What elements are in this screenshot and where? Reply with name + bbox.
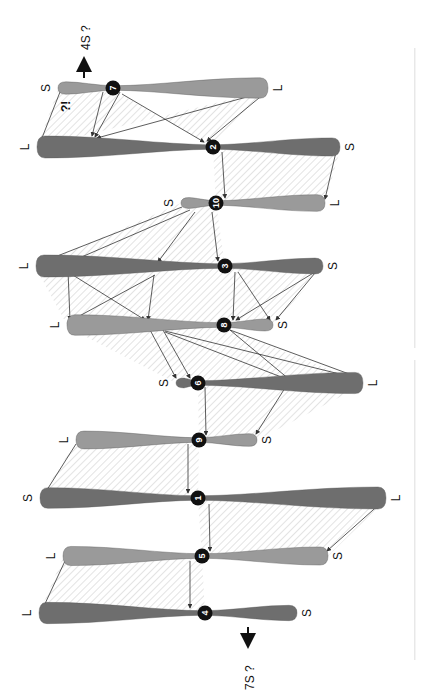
arm-label: L [44,552,58,559]
chromosome-number: 10 [211,198,221,208]
question-mark-annotation: ?! [59,101,73,112]
chromosome-arm [37,136,213,158]
chromosome-arm [113,78,268,98]
homology-regions [36,90,386,613]
chromosome-number: 4 [200,610,210,615]
arm-label: S [162,199,176,207]
arm-label: L [57,436,71,443]
arm-label: S [21,494,35,502]
chromosome-number: 8 [219,322,229,327]
arm-label: S [39,84,53,92]
chromosome-diagram: 7SL2LS10SL3LS8LS6SL9LS1SL5LS4LS 4S ? 7S … [0,0,424,693]
arm-label: S [260,436,274,444]
chromosome-number: 2 [208,144,218,149]
arm-label: L [48,321,62,328]
annotation-4s: 4S ? [79,25,93,78]
arm-label: L [17,262,31,269]
arm-label: L [366,379,380,386]
arm-label: L [389,494,403,501]
arm-label: L [328,199,342,206]
arm-label: S [343,143,357,151]
annotation-7s: 7S ? [243,627,257,690]
chromosome-number: 9 [194,437,204,442]
arm-label: L [20,609,34,616]
arm-label: S [300,609,314,617]
chromosome-number: 3 [220,263,230,268]
arm-label: L [18,143,32,150]
chromosome-number: 5 [197,553,207,558]
label-4s: 4S ? [79,25,93,50]
arm-label: S [276,321,290,329]
arm-label: S [331,552,345,560]
arm-label: S [326,262,340,270]
figure-caption [414,48,416,660]
arm-label: S [157,379,171,387]
label-7s: 7S ? [243,665,257,690]
chromosome-arm [205,605,297,620]
chromosome-number: 1 [193,495,203,500]
arm-label: L [271,84,285,91]
chromosome-number: 6 [193,380,203,385]
chromosome-number: 7 [108,85,118,90]
chromosome-2: 2LS [18,136,357,158]
